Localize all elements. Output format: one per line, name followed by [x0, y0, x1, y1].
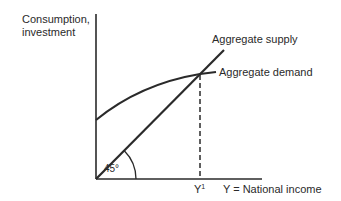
y-axis-label-line1: Consumption, — [22, 13, 90, 25]
equilibrium-income-label: Y1 — [194, 183, 205, 195]
aggregate-demand-curve — [96, 72, 216, 120]
y-axis-label-line2: investment — [22, 26, 75, 38]
aggregate-supply-label: Aggregate supply — [212, 33, 298, 45]
aggregate-supply-line — [96, 50, 224, 179]
income-determination-diagram: Consumption, investment 45° Aggregate su… — [0, 0, 341, 201]
angle-arc — [124, 151, 136, 179]
aggregate-demand-label: Aggregate demand — [219, 66, 313, 78]
angle-label: 45° — [104, 163, 119, 174]
x-axis-label: Y = National income — [223, 183, 322, 195]
